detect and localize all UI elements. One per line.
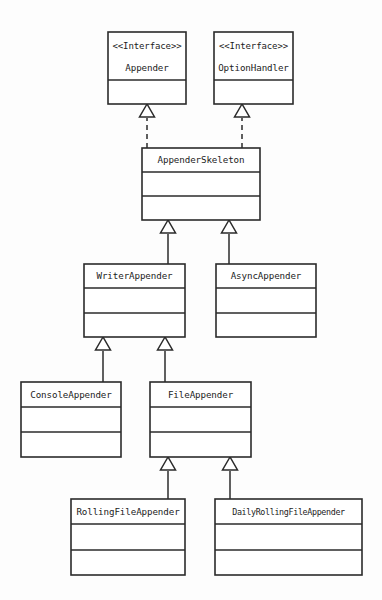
uml-class-box-daily-rolling-file-appender[interactable]: DailyRollingFileAppender: [215, 499, 362, 575]
stereotype-label: <<Interface>>: [112, 41, 182, 51]
hollow-triangle-arrow-icon: [222, 220, 237, 233]
class-name-label: Appender: [125, 62, 169, 73]
hollow-triangle-arrow-icon: [140, 104, 155, 117]
uml-class-box-async-appender[interactable]: AsyncAppender: [216, 264, 316, 337]
class-name-label: RollingFileAppender: [76, 506, 180, 517]
uml-class-diagram: <<Interface>>Appender<<Interface>>Option…: [0, 0, 382, 600]
edge-appender-skeleton-implements-appender: [140, 104, 155, 148]
edge-daily-rolling-file-appender-extends-file-appender: [223, 457, 238, 499]
edge-file-appender-extends-writer-appender: [158, 337, 173, 382]
uml-class-box-file-appender[interactable]: FileAppender: [150, 382, 251, 457]
class-name-label: ConsoleAppender: [30, 389, 112, 400]
class-name-label: AsyncAppender: [231, 270, 302, 281]
class-name-label: OptionHandler: [218, 62, 289, 73]
hollow-triangle-arrow-icon: [223, 457, 238, 470]
edge-appender-skeleton-implements-option-handler: [235, 104, 250, 148]
class-name-label: DailyRollingFileAppender: [232, 507, 345, 517]
edge-rolling-file-appender-extends-file-appender: [161, 457, 176, 499]
nodes-layer: <<Interface>>Appender<<Interface>>Option…: [21, 32, 362, 575]
uml-class-box-appender[interactable]: <<Interface>>Appender: [108, 32, 186, 104]
class-name-label: FileAppender: [168, 389, 234, 400]
uml-class-box-rolling-file-appender[interactable]: RollingFileAppender: [71, 499, 185, 575]
diagram-canvas: <<Interface>>Appender<<Interface>>Option…: [0, 0, 382, 600]
hollow-triangle-arrow-icon: [235, 104, 250, 117]
hollow-triangle-arrow-icon: [161, 220, 176, 233]
class-name-label: AppenderSkeleton: [158, 154, 245, 165]
uml-class-box-appender-skeleton[interactable]: AppenderSkeleton: [142, 148, 260, 220]
edge-async-appender-extends-appender-skeleton: [222, 220, 237, 264]
hollow-triangle-arrow-icon: [161, 457, 176, 470]
edge-console-appender-extends-writer-appender: [96, 337, 111, 382]
uml-class-box-option-handler[interactable]: <<Interface>>OptionHandler: [214, 32, 293, 104]
stereotype-label: <<Interface>>: [219, 41, 289, 51]
uml-class-box-writer-appender[interactable]: WriterAppender: [84, 264, 185, 337]
uml-class-box-console-appender[interactable]: ConsoleAppender: [21, 382, 121, 457]
hollow-triangle-arrow-icon: [158, 337, 173, 350]
hollow-triangle-arrow-icon: [96, 337, 111, 350]
class-name-label: WriterAppender: [96, 270, 173, 281]
edge-writer-appender-extends-appender-skeleton: [161, 220, 176, 264]
